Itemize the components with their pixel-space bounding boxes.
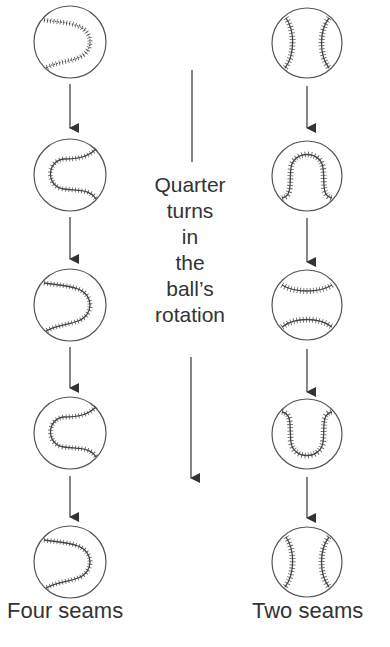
baseball-icon bbox=[34, 269, 106, 341]
four-seam-column bbox=[34, 6, 106, 598]
baseball-icon bbox=[34, 397, 106, 469]
two-seams-label: Two seams bbox=[252, 598, 363, 624]
baseball-icon bbox=[272, 399, 342, 469]
rotation-caption: Quarter turns in the ball’s rotation bbox=[125, 172, 255, 328]
caption-line: turns bbox=[125, 198, 255, 224]
baseball-icon bbox=[272, 527, 342, 597]
baseball-icon bbox=[272, 270, 342, 340]
caption-line: the bbox=[125, 250, 255, 276]
baseball-icon bbox=[34, 139, 106, 211]
caption-line: in bbox=[125, 224, 255, 250]
baseball-icon bbox=[272, 8, 342, 78]
two-seam-column bbox=[272, 8, 342, 597]
caption-line: Quarter bbox=[125, 172, 255, 198]
baseball-icon bbox=[272, 141, 342, 211]
baseball-icon bbox=[34, 526, 106, 598]
four-seams-label: Four seams bbox=[7, 598, 123, 624]
baseball-icon bbox=[34, 6, 106, 78]
caption-line: ball’s bbox=[125, 276, 255, 302]
caption-line: rotation bbox=[125, 302, 255, 328]
